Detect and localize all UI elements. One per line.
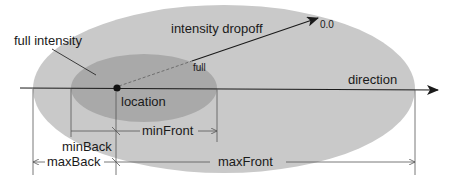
- location-label: location: [121, 94, 166, 109]
- location-dot: [113, 84, 120, 91]
- full-intensity-label: full intensity: [14, 33, 82, 48]
- dropoff-start-value: full: [193, 62, 206, 73]
- max-front-label: maxFront: [218, 154, 273, 169]
- min-back-label: minBack: [62, 139, 112, 154]
- direction-label: direction: [348, 72, 397, 87]
- sound-intensity-diagram: full intensity intensity dropoff 0.0 ful…: [0, 0, 456, 185]
- max-back-label: maxBack: [47, 154, 101, 169]
- min-front-label: minFront: [142, 123, 194, 138]
- dropoff-end-value: 0.0: [320, 19, 334, 30]
- intensity-dropoff-label: intensity dropoff: [171, 21, 263, 36]
